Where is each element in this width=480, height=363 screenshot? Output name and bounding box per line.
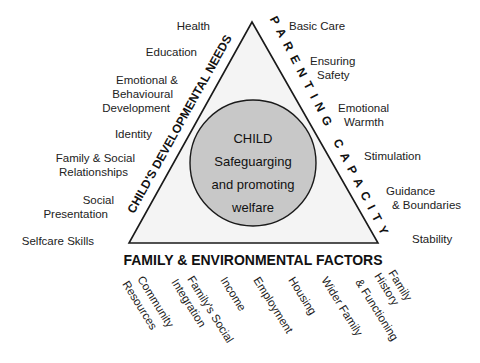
center-line-2: Safeguarging xyxy=(214,154,291,169)
right-item-basic-care: Basic Care xyxy=(289,20,345,32)
right-item-safety-1: Ensuring xyxy=(310,55,355,67)
center-line-1: CHILD xyxy=(233,131,272,146)
right-item-safety-2: Safety xyxy=(317,69,350,81)
center-line-4: welfare xyxy=(231,200,274,215)
left-item-social-presentation-2: Presentation xyxy=(43,208,108,220)
left-item-selfcare: Selfcare Skills xyxy=(22,235,94,247)
right-item-stimulation: Stimulation xyxy=(364,150,421,162)
right-item-warmth-1: Emotional xyxy=(338,102,389,114)
right-item-guidance-1: Guidance xyxy=(386,185,435,197)
bottom-item-housing: Housing xyxy=(286,275,319,317)
side-title-bottom: FAMILY & ENVIRONMENTAL FACTORS xyxy=(123,252,382,268)
left-item-emotional-1: Emotional & xyxy=(116,74,178,86)
right-item-guidance-2: & Boundaries xyxy=(392,199,461,211)
assessment-triangle-diagram: CHILD Safeguarging and promoting welfare… xyxy=(0,0,480,363)
left-item-health: Health xyxy=(177,20,210,32)
bottom-items: Community Resources Family's Social Inte… xyxy=(120,268,414,345)
right-item-warmth-2: Warmth xyxy=(344,116,384,128)
left-item-identity: Identity xyxy=(115,128,152,140)
left-item-family-social-1: Family & Social xyxy=(56,152,135,164)
right-item-stability: Stability xyxy=(412,233,453,245)
left-item-emotional-3: Development xyxy=(102,102,171,114)
left-item-education: Education xyxy=(146,46,197,58)
center-line-3: and promoting xyxy=(211,177,294,192)
left-item-social-presentation-1: Social xyxy=(83,194,114,206)
left-item-emotional-2: Behavioural xyxy=(112,88,173,100)
left-item-family-social-2: Relationships xyxy=(59,166,128,178)
bottom-item-income: Income xyxy=(218,275,248,313)
